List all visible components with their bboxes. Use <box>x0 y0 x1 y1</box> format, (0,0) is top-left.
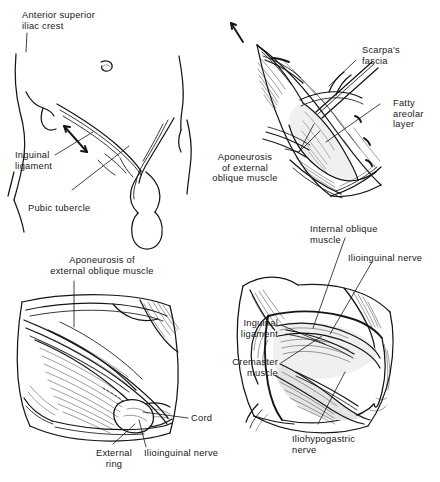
label-line: ligament <box>15 161 52 171</box>
label-line: External <box>96 448 132 458</box>
label-line: Pubic tubercle <box>28 203 90 213</box>
label-aponeurosis-external-oblique-p3: Aponeurosis ofexternal oblique muscle <box>22 255 182 276</box>
label-line: nerve <box>292 445 317 455</box>
label-inguinal-ligament-p1: Inguinalligament <box>15 150 52 171</box>
label-scarpas-fascia: Scarpa'sfascia <box>362 45 400 66</box>
label-internal-oblique-muscle: Internal obliquemuscle <box>310 224 378 245</box>
label-line: ring <box>106 459 123 469</box>
label-anterior-superior-iliac-crest: Anterior superioriliac crest <box>22 10 95 31</box>
label-line: ligament <box>241 329 278 339</box>
label-line: areolar <box>393 109 424 119</box>
label-line: Iliohypogastric <box>292 434 355 444</box>
label-line: external oblique muscle <box>50 266 153 276</box>
label-aponeurosis-external-oblique-p2: Aponeurosisof externaloblique muscle <box>205 152 285 184</box>
label-line: fascia <box>362 56 388 66</box>
label-line: Fatty <box>393 98 415 108</box>
label-ilioinguinal-nerve-p3: Ilioinguinal nerve <box>144 448 218 459</box>
label-line: Cord <box>191 413 212 423</box>
label-inguinal-ligament-p4: Inguinalligament <box>178 318 278 339</box>
label-line: layer <box>393 119 414 129</box>
label-external-ring: Externalring <box>78 448 150 469</box>
label-line: Aponeurosis of <box>69 255 135 265</box>
label-line: muscle <box>310 235 341 245</box>
label-cord: Cord <box>191 413 212 424</box>
label-fatty-areolar-layer: Fattyareolarlayer <box>393 98 424 130</box>
label-line: muscle <box>247 368 278 378</box>
label-line: Internal oblique <box>310 224 378 234</box>
label-line: Ilioinguinal nerve <box>348 253 422 263</box>
label-line: iliac crest <box>22 21 64 31</box>
label-cremaster-muscle: Cremastermuscle <box>178 357 278 378</box>
label-line: Cremaster <box>232 357 278 367</box>
anatomy-plate: Anterior superioriliac crest Inguinallig… <box>0 0 440 482</box>
label-line: Anterior superior <box>22 10 95 20</box>
label-line: Inguinal <box>15 150 50 160</box>
label-line: Aponeurosis <box>218 152 272 162</box>
label-line: of external <box>222 163 268 173</box>
label-ilioinguinal-nerve-p4: Ilioinguinal nerve <box>348 253 422 264</box>
label-line: oblique muscle <box>212 173 278 183</box>
label-line: Scarpa's <box>362 45 400 55</box>
label-pubic-tubercle: Pubic tubercle <box>28 203 90 214</box>
label-line: Inguinal <box>243 318 278 328</box>
label-iliohypogastric-nerve: Iliohypogastricnerve <box>292 434 355 455</box>
label-line: Ilioinguinal nerve <box>144 448 218 458</box>
